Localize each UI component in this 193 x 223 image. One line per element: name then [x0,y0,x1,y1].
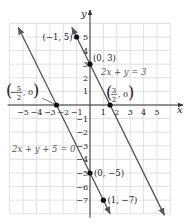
x-tick-label: −4 [31,108,43,117]
y-tick-label: −6 [76,183,88,192]
y-tick-label: −7 [76,196,88,205]
x-tick-label: 5 [154,108,159,117]
point-label: (1, −7) [107,195,137,205]
data-point [101,198,106,203]
y-tick-label: −2 [76,128,88,137]
point-label: (0, 3) [93,53,116,63]
denominator: 2 [17,94,21,102]
x-tick-label: −3 [44,108,56,117]
y-tick-label: 5 [83,33,88,42]
sign: − [10,88,17,97]
numerator: 3 [112,87,116,95]
numerator: 5 [17,85,21,93]
graph-lines [18,27,164,215]
rest: , 0 [118,90,128,99]
data-point [87,62,92,67]
x-tick-label: −5 [17,108,29,117]
y-tick-label: 1 [83,87,88,96]
x-tick-label: 1 [101,108,106,117]
y-tick-label: −1 [76,115,88,124]
data-point [87,170,92,175]
tick-labels: −5−4−3−2−11234554321−1−2−3−4−5−6−7 [17,33,159,205]
leader-line [42,98,55,104]
rest: , 0 [23,88,33,97]
y-tick-label: 2 [83,74,88,83]
x-tick-label: 3 [128,108,133,117]
y-axis-label: y [80,8,87,19]
paren-right: ) [33,81,39,100]
line2-equation-label: 2x + y + 5 = 0 [11,144,76,154]
y-tick-label: 3 [83,60,88,69]
coordinate-plane: −5−4−3−2−11234554321−1−2−3−4−5−6−7 (−1, … [0,0,193,223]
x-axis-label: x [177,104,183,115]
y-tick-label: −5 [76,169,88,178]
line1-equation-label: 2x + y = 3 [100,67,146,77]
denominator: 2 [112,96,116,104]
fraction-point-label: (32, 0) [106,83,134,104]
paren-right: ) [128,83,134,102]
data-point [74,34,79,39]
data-point [54,102,59,107]
point-label: (−1, 5) [43,32,73,42]
point-label: (0, −5) [94,168,124,178]
x-tick-label: 4 [141,108,146,117]
